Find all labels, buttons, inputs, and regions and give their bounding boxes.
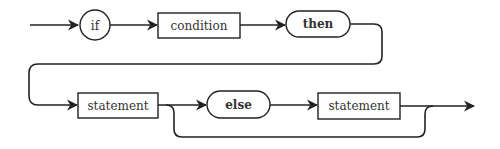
node-condition-label: condition: [171, 19, 228, 33]
node-else: else: [207, 91, 270, 118]
node-statement-2: statement: [318, 93, 400, 119]
node-then: then: [286, 11, 350, 37]
node-statement-1: statement: [78, 93, 158, 118]
node-then-label: then: [303, 17, 334, 31]
node-if: if: [80, 10, 110, 40]
node-condition: condition: [158, 13, 240, 38]
node-else-label: else: [225, 98, 252, 112]
node-statement-2-label: statement: [328, 99, 389, 113]
if-statement-syntax-diagram: if condition then statement else stateme…: [0, 0, 500, 149]
node-statement-1-label: statement: [87, 99, 148, 113]
